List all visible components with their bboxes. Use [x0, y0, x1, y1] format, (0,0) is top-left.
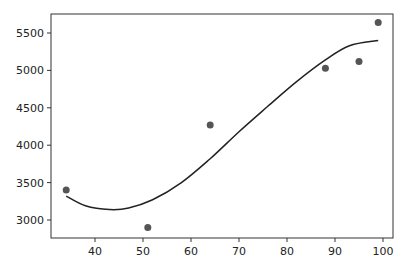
- scatter-chart: 300035004000450050005500 405060708090100: [0, 0, 410, 268]
- data-point: [63, 187, 70, 194]
- data-point: [375, 19, 382, 26]
- data-point: [356, 58, 363, 65]
- x-tick-label: 40: [88, 245, 102, 258]
- x-tick-label: 100: [373, 245, 394, 258]
- x-axis: 405060708090100: [88, 238, 394, 258]
- y-tick-label: 5000: [16, 64, 44, 77]
- x-tick-label: 80: [280, 245, 294, 258]
- data-point: [144, 224, 151, 231]
- y-axis: 300035004000450050005500: [16, 27, 51, 227]
- data-point: [207, 122, 214, 129]
- y-tick-label: 5500: [16, 27, 44, 40]
- x-tick-label: 60: [184, 245, 198, 258]
- y-tick-label: 3500: [16, 177, 44, 190]
- data-point: [322, 65, 329, 72]
- plot-area: [51, 14, 393, 238]
- x-tick-label: 70: [232, 245, 246, 258]
- x-tick-label: 90: [328, 245, 342, 258]
- x-tick-label: 50: [136, 245, 150, 258]
- y-tick-label: 3000: [16, 214, 44, 227]
- y-tick-label: 4000: [16, 139, 44, 152]
- y-tick-label: 4500: [16, 102, 44, 115]
